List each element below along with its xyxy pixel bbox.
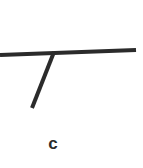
- figure-panel: c: [0, 0, 143, 168]
- panel-caption-label: c: [0, 134, 106, 154]
